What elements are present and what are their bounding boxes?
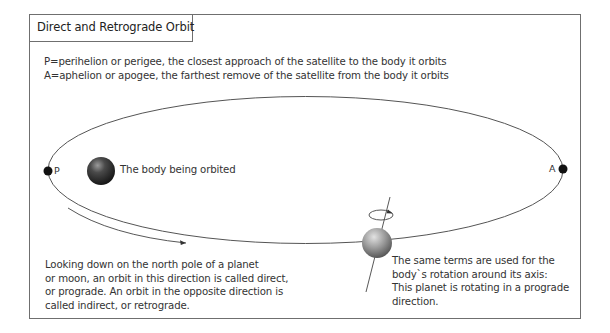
note-line: The same terms are used for the <box>392 254 569 268</box>
rotating-planet-icon <box>362 228 392 258</box>
perihelion-dot <box>44 167 53 176</box>
note-line: Looking down on the north pole of a plan… <box>45 258 288 272</box>
rotation-direction-note: The same terms are used for the body`s r… <box>392 254 569 308</box>
aphelion-dot <box>559 165 568 174</box>
perihelion-label: P <box>54 165 60 176</box>
note-line: or prograde. An orbit in the opposite di… <box>45 285 288 299</box>
note-line: or moon, an orbit in this direction is c… <box>45 272 288 286</box>
orbit-direction-arrow-icon <box>68 208 186 245</box>
aphelion-label: A <box>549 163 556 174</box>
note-line: called indirect, or retrograde. <box>45 299 288 313</box>
orbit-direction-note: Looking down on the north pole of a plan… <box>45 258 288 312</box>
note-line: direction. <box>392 295 569 309</box>
central-body-icon <box>87 157 115 185</box>
central-body-label: The body being orbited <box>120 164 236 175</box>
rotation-arrow-icon <box>387 210 393 214</box>
note-line: This planet is rotating in a prograde <box>392 281 569 295</box>
note-line: body`s rotation around its axis: <box>392 268 569 282</box>
